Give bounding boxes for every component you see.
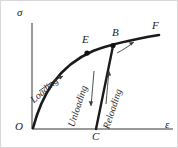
x-axis-label: ε bbox=[165, 119, 169, 130]
unloading-direction-arrow bbox=[89, 71, 94, 106]
stress-strain-diagram: σ ε O E B C F Loading Unloading Reloadin… bbox=[0, 0, 178, 148]
point-label-E: E bbox=[82, 34, 89, 45]
point-marker-E bbox=[84, 50, 89, 55]
point-marker-B bbox=[110, 43, 115, 48]
point-label-B: B bbox=[112, 27, 119, 38]
point-label-O: O bbox=[15, 121, 23, 132]
point-label-F: F bbox=[152, 20, 159, 31]
y-axis-label: σ bbox=[17, 7, 22, 18]
point-label-C: C bbox=[92, 131, 99, 142]
